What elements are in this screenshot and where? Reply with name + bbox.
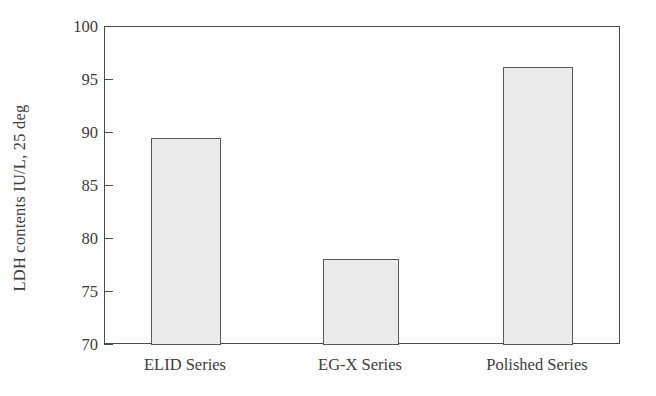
y-axis-tick-label-text: 70 xyxy=(82,335,99,355)
y-axis-tick-label-text: 90 xyxy=(82,123,99,143)
y-axis-tick-label-text: 80 xyxy=(82,229,99,249)
y-axis-tick xyxy=(104,344,113,345)
bar xyxy=(151,138,221,345)
x-axis-category-label: Polished Series xyxy=(427,355,647,375)
y-axis-tick xyxy=(104,79,113,80)
y-axis-tick xyxy=(104,291,113,292)
y-axis-tick xyxy=(104,238,113,239)
y-axis-tick xyxy=(104,185,113,186)
bar xyxy=(503,67,573,345)
y-axis-tick xyxy=(104,26,113,27)
y-axis-tick-label-text: 75 xyxy=(82,282,99,302)
y-axis-title: LDH contents IU/L, 25 deg xyxy=(0,0,40,396)
y-axis-tick-label-text: 85 xyxy=(82,176,99,196)
y-axis-tick-label-text: 100 xyxy=(73,17,98,37)
bar-chart-figure: LDH contents IU/L, 25 deg 10095908580757… xyxy=(0,0,656,396)
plot-area xyxy=(104,26,620,344)
bar xyxy=(323,259,399,345)
y-axis-tick-label-text: 95 xyxy=(82,70,99,90)
y-axis-tick xyxy=(104,132,113,133)
